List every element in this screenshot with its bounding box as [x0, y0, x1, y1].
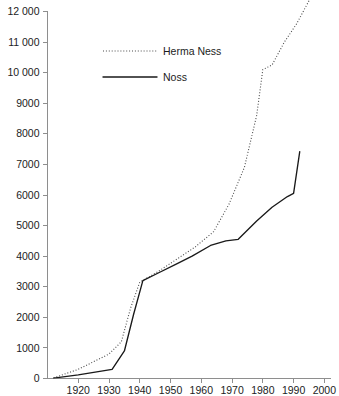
y-tick-label: 9000 [16, 97, 40, 109]
y-tick-label: 11 000 [8, 36, 39, 48]
y-tick-label: 7000 [16, 158, 40, 170]
x-axis-ticks: 192019301940195019601970198019902000 [67, 379, 337, 396]
x-tick-label: 1970 [220, 384, 244, 396]
x-tick-label: 2000 [313, 384, 337, 396]
y-tick-label: 5000 [16, 219, 40, 231]
legend-label-herma-ness: Herma Ness [163, 45, 221, 57]
chart-canvas: 010002000300040005000600070008000900010 … [0, 0, 339, 396]
y-tick-label: 1000 [16, 342, 40, 354]
y-tick-label: 0 [34, 372, 40, 384]
y-axis-ticks: 010002000300040005000600070008000900010 … [7, 5, 47, 384]
y-tick-label: 12 000 [7, 5, 39, 17]
legend-label-noss: Noss [163, 71, 187, 83]
y-tick-label: 8000 [16, 127, 40, 139]
y-tick-label: 4000 [16, 250, 40, 262]
series-line-noss [54, 152, 300, 379]
chart-legend: Herma NessNoss [103, 45, 221, 83]
line-chart: 010002000300040005000600070008000900010 … [0, 0, 339, 396]
y-tick-label: 10 000 [7, 66, 39, 78]
y-tick-label: 2000 [16, 311, 40, 323]
x-tick-label: 1940 [128, 384, 152, 396]
x-tick-label: 1930 [97, 384, 121, 396]
y-tick-label: 6000 [16, 189, 40, 201]
chart-axes [48, 12, 331, 379]
y-tick-label: 3000 [16, 280, 40, 292]
x-tick-label: 1980 [251, 384, 275, 396]
x-tick-label: 1990 [282, 384, 306, 396]
series-line-herma-ness [54, 1, 309, 378]
chart-series [54, 1, 309, 378]
x-tick-label: 1920 [67, 384, 91, 396]
x-tick-label: 1950 [159, 384, 183, 396]
x-tick-label: 1960 [190, 384, 214, 396]
